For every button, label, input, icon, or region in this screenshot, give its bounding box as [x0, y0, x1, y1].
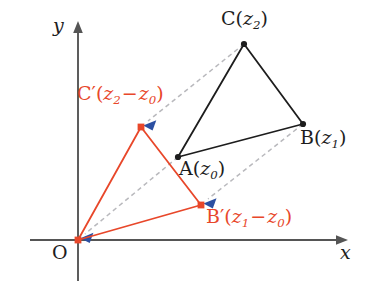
triangle-ob-prime-c-prime-group	[75, 124, 205, 244]
triangle-abc-group	[175, 41, 306, 160]
triangle-ob-prime-c-prime	[78, 127, 201, 240]
vertex-c-dot	[241, 41, 247, 47]
x-axis-label: x	[340, 243, 351, 262]
point-c-label: C(z2)	[221, 9, 268, 28]
complex-plane-figure: y x O C(z2) B(z1) A(z0) C′(z2−z0) B′(z1−…	[0, 0, 370, 291]
point-c-prime-label: C′(z2−z0)	[77, 84, 164, 103]
vertex-cprime-dot	[138, 124, 145, 131]
triangle-abc	[178, 44, 303, 157]
y-axis-arrowhead	[73, 21, 83, 33]
point-b-label: B(z1)	[300, 128, 346, 147]
origin-label: O	[52, 243, 68, 262]
vertex-origin-dot	[75, 237, 82, 244]
arrowhead-at-cprime	[143, 120, 156, 130]
point-b-prime-label: B′(z1−z0)	[206, 207, 292, 226]
guide-line-a-to-origin	[85, 157, 178, 234]
y-axis-label: y	[53, 16, 64, 35]
point-a-label: A(z0)	[179, 159, 225, 178]
vertex-bprime-dot	[198, 202, 205, 209]
